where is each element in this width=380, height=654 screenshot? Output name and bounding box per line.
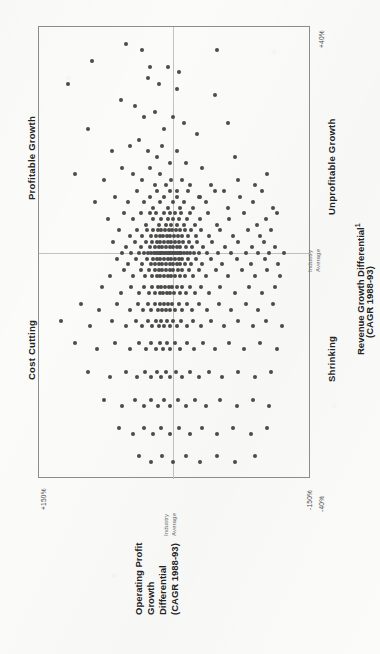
scatter-point <box>149 460 153 464</box>
scatter-point <box>168 432 172 436</box>
scatter-point <box>90 59 94 63</box>
scatter-point <box>218 285 222 289</box>
scatter-point <box>190 308 194 312</box>
quadrant-label-unprofitable-growth: Unprofitable Growth <box>326 118 337 215</box>
scatter-point <box>176 234 180 238</box>
scatter-point <box>213 93 217 97</box>
scatter-point <box>170 285 174 289</box>
scatter-point <box>148 195 152 199</box>
scatter-point <box>198 460 202 464</box>
scatter-point <box>59 319 63 323</box>
scatter-point <box>188 285 192 289</box>
scatter-point <box>199 324 203 328</box>
scatter-point <box>79 302 83 306</box>
scatter-point <box>143 370 147 374</box>
scatter-point <box>209 183 213 187</box>
scatter-point <box>149 341 153 345</box>
scatter-point <box>66 82 70 86</box>
revenue-axis-footnote-marker: 1 <box>354 223 361 227</box>
scatter-point <box>157 223 161 227</box>
scatter-point <box>139 245 143 249</box>
scatter-point <box>200 262 204 266</box>
scatter-point <box>187 268 191 272</box>
scatter-point <box>175 223 179 227</box>
industry-average-note-revenue-line2: Average <box>314 249 321 272</box>
scatter-point <box>137 138 141 142</box>
scatter-point <box>258 234 262 238</box>
scatter-point <box>275 347 279 351</box>
scatter-point <box>231 234 235 238</box>
scatter-point <box>233 460 237 464</box>
scatter-point <box>175 195 179 199</box>
scatter-point <box>178 206 182 210</box>
scatter-point <box>124 370 128 374</box>
scatter-point <box>102 178 106 182</box>
scatter-point <box>204 200 208 204</box>
scatter-point <box>204 274 208 278</box>
scatter-point <box>242 211 246 215</box>
scatter-point <box>73 341 77 345</box>
scatter-point <box>128 144 132 148</box>
scatter-point <box>173 274 177 278</box>
scatter-point <box>148 211 152 215</box>
scatter-point <box>128 234 132 238</box>
scatter-point <box>166 65 170 69</box>
scatter-point <box>250 245 254 249</box>
scatter-point <box>120 166 124 170</box>
scatter-point <box>168 211 172 215</box>
scatter-point <box>189 262 193 266</box>
scatter-point <box>149 234 153 238</box>
scatter-point <box>150 285 154 289</box>
scatter-point <box>222 189 226 193</box>
scatter-point <box>150 274 154 278</box>
scatter-point <box>244 251 248 255</box>
industry-average-note-profit-line1: Industry <box>162 514 169 536</box>
scatter-point <box>213 189 217 193</box>
scatter-point <box>140 324 144 328</box>
scatter-point <box>173 341 177 345</box>
scatter-point <box>236 370 240 374</box>
scatter-point <box>171 217 175 221</box>
scatter-point <box>253 183 257 187</box>
scatter-point <box>186 189 190 193</box>
scatter-point <box>140 178 144 182</box>
scatter-point <box>178 291 182 295</box>
scatter-point <box>150 240 154 244</box>
scatter-point <box>180 308 184 312</box>
scatter-point <box>265 172 269 176</box>
scatter-point <box>226 274 230 278</box>
scatter-point <box>165 319 169 323</box>
scatter-point <box>263 257 267 261</box>
scatter-point <box>147 291 151 295</box>
revenue-axis-title-line2: (CAGR 1988-93) <box>364 266 376 338</box>
scatter-point <box>93 200 97 204</box>
scatter-point <box>185 324 189 328</box>
scatter-point <box>273 245 277 249</box>
scatter-point <box>223 245 227 249</box>
scatter-point <box>166 302 170 306</box>
scatter-point <box>159 426 163 430</box>
scatter-point <box>278 274 282 278</box>
scatter-point <box>191 319 195 323</box>
scatter-point <box>169 223 173 227</box>
profit-axis-title-line4: (CAGR 1988-93) <box>169 543 181 615</box>
scatter-point <box>229 308 233 312</box>
scatter-point <box>183 274 187 278</box>
scatter-point <box>144 223 148 227</box>
scatter-point <box>171 268 175 272</box>
scatter-point <box>273 285 277 289</box>
scatter-point <box>120 404 124 408</box>
scatter-point <box>200 166 204 170</box>
scatter-point <box>175 87 179 91</box>
scatter-point <box>185 302 189 306</box>
scatter-point <box>265 268 269 272</box>
scatter-point <box>162 211 166 215</box>
scatter-point <box>141 308 145 312</box>
scatter-point <box>102 398 106 402</box>
scatter-point <box>267 404 271 408</box>
scatter-point <box>209 319 213 323</box>
scatter-point <box>124 324 128 328</box>
scatter-point <box>131 172 135 176</box>
scatter-point <box>157 82 161 86</box>
scatter-point <box>178 245 182 249</box>
